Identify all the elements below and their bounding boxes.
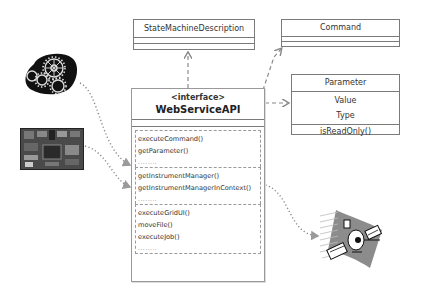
method-executegridui: executeGridUI() (138, 207, 258, 219)
circuit-board-image (20, 128, 84, 170)
method-getinstrumentmanagerincontext: getInstrumentManagerInContext() (138, 182, 258, 194)
gears-icon (18, 50, 82, 98)
method-executecommand: executeCommand() (138, 133, 258, 145)
method-group-commands: executeCommand() getParameter() ........ (135, 130, 261, 167)
method-getparameter: getParameter() (138, 145, 258, 157)
gears-link (80, 83, 130, 165)
ellipsis: ........ (138, 243, 258, 253)
uml-diagram: StateMachineDescription Command Paramete… (0, 0, 423, 295)
interface-header: <interface> WebServiceAPI (132, 89, 264, 120)
dependency-to-command (263, 49, 281, 90)
class-command[interactable]: Command (281, 19, 400, 47)
method-group-grid: executeGridUI() moveFile() executeJob() … (135, 204, 261, 254)
board-link (85, 146, 130, 187)
method-getinstrumentmanager: getInstrumentManager() (138, 170, 258, 182)
interface-name: WebServiceAPI (132, 103, 264, 116)
satellite-icon (318, 208, 390, 276)
class-name: StateMachineDescription (134, 20, 254, 38)
interface-webserviceapi[interactable]: <interface> WebServiceAPI executeCommand… (131, 88, 265, 282)
method-executejob: executeJob() (138, 231, 258, 243)
stereotype-label: <interface> (132, 92, 264, 103)
attribute-value: Value (292, 93, 399, 108)
ellipsis: ........ (138, 157, 258, 167)
class-parameter[interactable]: Parameter Value Type isReadOnly() (291, 74, 400, 135)
method-movefile: moveFile() (138, 219, 258, 231)
class-name: Command (282, 20, 399, 37)
method-group-instrument: getInstrumentManager() getInstrumentMana… (135, 167, 261, 204)
attribute-type: Type (292, 108, 399, 123)
attributes-compartment: Value Type (292, 92, 399, 125)
operation-isreadonly: isReadOnly() (292, 125, 399, 139)
attributes-compartment (132, 120, 264, 127)
satellite-link (262, 184, 318, 236)
class-statemachinedescription[interactable]: StateMachineDescription (133, 19, 255, 50)
operations-compartment (282, 42, 399, 47)
operations-compartment: executeCommand() getParameter() ........… (132, 127, 264, 254)
ellipsis: ........ (138, 194, 258, 204)
operations-compartment (134, 44, 254, 50)
class-name: Parameter (292, 75, 399, 92)
